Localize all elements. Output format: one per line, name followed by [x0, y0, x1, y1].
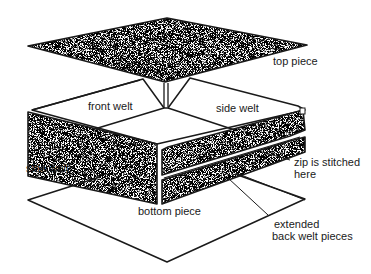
label-zip-line2: here [294, 168, 316, 180]
label-bottom-piece: bottom piece [138, 205, 201, 217]
back-corner-seam [164, 83, 168, 108]
label-front-welt: front welt [88, 100, 133, 112]
label-zip-line1: zip is stitched [294, 156, 360, 168]
label-extended-line2: back welt pieces [272, 230, 353, 242]
label-top-piece: top piece [273, 55, 318, 67]
label-extended-line1: extended [274, 218, 319, 230]
label-side-welt-right: side welt [216, 102, 259, 114]
label-side-welt-left: side welt [26, 162, 69, 174]
top-piece [28, 18, 307, 82]
